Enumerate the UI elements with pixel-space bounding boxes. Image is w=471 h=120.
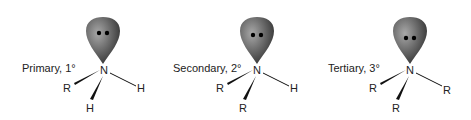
- lone-pair-orbital-lobe: [393, 17, 427, 64]
- wedge-bond-left: [74, 70, 100, 85]
- substituent-right: H: [137, 82, 145, 94]
- tertiary-label: Tertiary, 3°: [328, 62, 380, 74]
- bond-right: [416, 73, 442, 86]
- amine-diagram: Primary, 1° N R H H Secondary, 2° N R H …: [0, 0, 471, 120]
- wedge-bond-bottom: [90, 76, 103, 100]
- wedge-bond-bottom: [396, 76, 409, 100]
- lone-pair-electron: [251, 33, 255, 37]
- substituent-bottom: R: [239, 102, 247, 114]
- nitrogen-atom: N: [100, 64, 108, 76]
- substituent-right: R: [443, 84, 451, 96]
- primary-label: Primary, 1°: [22, 62, 76, 74]
- secondary-label: Secondary, 2°: [173, 62, 241, 74]
- lone-pair-electron: [412, 36, 416, 40]
- bond-right: [110, 73, 136, 86]
- substituent-left: R: [369, 82, 377, 94]
- panel-tertiary: Tertiary, 3° N R R R: [328, 17, 451, 114]
- substituent-left: R: [216, 82, 224, 94]
- substituent-bottom: H: [86, 102, 94, 114]
- lone-pair-electron: [97, 31, 101, 35]
- lone-pair-electron: [259, 33, 263, 37]
- lone-pair-electron: [404, 36, 408, 40]
- wedge-bond-bottom: [243, 76, 256, 100]
- bond-right: [263, 73, 289, 86]
- substituent-right: H: [290, 82, 298, 94]
- panel-secondary: Secondary, 2° N R H R: [173, 17, 298, 114]
- nitrogen-atom: N: [406, 64, 414, 76]
- substituent-left: R: [63, 82, 71, 94]
- panel-primary: Primary, 1° N R H H: [22, 17, 145, 114]
- lone-pair-orbital-lobe: [86, 17, 120, 64]
- lone-pair-orbital-lobe: [240, 17, 274, 64]
- wedge-bond-left: [380, 70, 406, 85]
- substituent-bottom: R: [392, 102, 400, 114]
- lone-pair-electron: [105, 31, 109, 35]
- nitrogen-atom: N: [253, 64, 261, 76]
